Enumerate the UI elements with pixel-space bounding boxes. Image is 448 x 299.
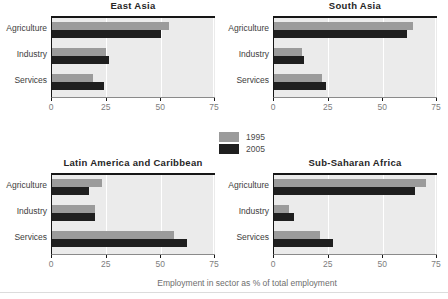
category-label: Industry — [222, 203, 273, 219]
bar-2005-agriculture — [274, 187, 415, 195]
bar-1995-industry — [274, 48, 302, 56]
tick-mark — [160, 98, 161, 101]
bar-group-agriculture — [52, 22, 215, 38]
bar-1995-services — [274, 231, 320, 239]
chart-title: Sub-Saharan Africa — [273, 157, 437, 169]
legend-item-1995: 1995 — [219, 131, 265, 142]
category-label: Services — [0, 72, 51, 88]
bar-1995-industry — [52, 205, 95, 213]
category-label: Services — [222, 72, 273, 88]
chart-title: East Asia — [51, 0, 215, 12]
tick-mark — [214, 98, 215, 101]
bar-2005-services — [274, 239, 333, 247]
tick-mark — [214, 255, 215, 258]
tick-label: 50 — [378, 102, 387, 112]
bar-2005-services — [52, 239, 187, 247]
bar-1995-services — [52, 74, 93, 82]
tick-label: 0 — [271, 102, 276, 112]
bar-group-industry — [52, 205, 215, 221]
tick-label: 75 — [209, 259, 218, 269]
chart-latin-america-caribbean: Latin America and Caribbean Agriculture … — [0, 157, 215, 271]
x-axis: 0 25 50 75 — [51, 255, 215, 271]
legend-item-2005: 2005 — [219, 143, 265, 154]
x-axis: 0 25 50 75 — [273, 98, 437, 114]
chart-east-asia: East Asia Agriculture Industry Services … — [0, 0, 215, 114]
tick-mark — [382, 98, 383, 101]
tick-mark — [328, 255, 329, 258]
category-label: Industry — [0, 46, 51, 62]
bar-group-agriculture — [52, 179, 215, 195]
plot-area — [273, 173, 437, 255]
tick-mark — [328, 98, 329, 101]
category-label: Agriculture — [222, 177, 273, 193]
tick-mark — [106, 98, 107, 101]
tick-label: 75 — [431, 102, 440, 112]
tick-mark — [51, 98, 52, 101]
chart-title: South Asia — [273, 0, 437, 12]
category-label: Industry — [0, 203, 51, 219]
bar-1995-agriculture — [274, 179, 426, 187]
bar-group-industry — [274, 205, 437, 221]
category-label: Agriculture — [222, 20, 273, 36]
category-label: Services — [0, 229, 51, 245]
bar-1995-services — [274, 74, 322, 82]
tick-mark — [436, 98, 437, 101]
category-axis: Agriculture Industry Services — [222, 173, 273, 255]
x-axis: 0 25 50 75 — [51, 98, 215, 114]
tick-mark — [436, 255, 437, 258]
tick-mark — [273, 255, 274, 258]
chart-title: Latin America and Caribbean — [51, 157, 215, 169]
tick-mark — [273, 98, 274, 101]
divider — [0, 292, 448, 293]
bar-1995-agriculture — [274, 22, 413, 30]
chart-sub-saharan-africa: Sub-Saharan Africa Agriculture Industry … — [222, 157, 437, 271]
category-label: Services — [222, 229, 273, 245]
category-axis: Agriculture Industry Services — [0, 16, 51, 98]
bar-group-services — [274, 231, 437, 247]
bar-2005-agriculture — [52, 187, 89, 195]
bar-1995-agriculture — [52, 22, 169, 30]
tick-label: 50 — [156, 102, 165, 112]
tick-label: 75 — [431, 259, 440, 269]
tick-label: 25 — [101, 259, 110, 269]
chart-south-asia: South Asia Agriculture Industry Services… — [222, 0, 437, 114]
tick-mark — [160, 255, 161, 258]
bar-group-industry — [274, 48, 437, 64]
bar-1995-services — [52, 231, 174, 239]
bar-2005-industry — [52, 213, 95, 221]
bar-group-services — [274, 74, 437, 90]
bar-group-services — [52, 231, 215, 247]
bar-1995-industry — [52, 48, 106, 56]
tick-label: 25 — [323, 259, 332, 269]
x-axis-title: Employment in sector as % of total emplo… — [46, 278, 448, 288]
bar-group-agriculture — [274, 179, 437, 195]
category-label: Agriculture — [0, 20, 51, 36]
bar-series — [274, 175, 437, 254]
legend-swatch-2005 — [219, 144, 239, 154]
bar-2005-industry — [274, 213, 294, 221]
category-axis: Agriculture Industry Services — [0, 173, 51, 255]
tick-label: 25 — [101, 102, 110, 112]
bar-2005-services — [52, 82, 104, 90]
x-axis: 0 25 50 75 — [273, 255, 437, 271]
tick-label: 25 — [323, 102, 332, 112]
tick-label: 0 — [49, 102, 54, 112]
figure-employment-by-sector: East Asia Agriculture Industry Services … — [0, 0, 448, 299]
legend-label-1995: 1995 — [246, 132, 265, 142]
category-label: Agriculture — [0, 177, 51, 193]
bar-1995-industry — [274, 205, 289, 213]
tick-mark — [51, 255, 52, 258]
plot-area — [273, 16, 437, 98]
tick-label: 50 — [378, 259, 387, 269]
bar-group-agriculture — [274, 22, 437, 38]
bar-2005-industry — [52, 56, 109, 64]
category-axis: Agriculture Industry Services — [222, 16, 273, 98]
legend: 1995 2005 — [219, 131, 265, 155]
tick-label: 50 — [156, 259, 165, 269]
tick-mark — [382, 255, 383, 258]
plot-area — [51, 16, 215, 98]
bar-1995-agriculture — [52, 179, 102, 187]
bar-series — [52, 18, 215, 97]
tick-mark — [106, 255, 107, 258]
bar-2005-agriculture — [274, 30, 407, 38]
